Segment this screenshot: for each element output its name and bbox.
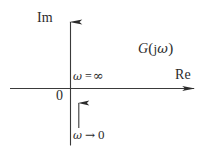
real-axis-label: Re — [175, 68, 191, 82]
transfer-function-close-paren: ) — [168, 40, 173, 56]
origin-label: 0 — [56, 89, 63, 103]
transfer-function-g: G — [138, 41, 148, 56]
imaginary-axis-label: Im — [37, 11, 53, 25]
omega-infinity-relation: = — [82, 69, 93, 83]
omega-zero-label: ω→0 — [73, 128, 105, 141]
omega-infinity-value: ∞ — [93, 68, 104, 83]
omega-zero-value: 0 — [98, 127, 105, 142]
omega-infinity-symbol: ω — [73, 70, 82, 83]
transfer-function-omega: ω — [157, 41, 168, 56]
transfer-function-label: G(jω) — [138, 41, 173, 56]
omega-zero-symbol: ω — [73, 129, 82, 142]
omega-zero-relation-arrow: → — [82, 128, 98, 142]
nyquist-plot-figure: Im Re 0 G(jω) ω=∞ ω→0 — [0, 0, 213, 151]
omega-infinity-label: ω=∞ — [73, 69, 104, 82]
